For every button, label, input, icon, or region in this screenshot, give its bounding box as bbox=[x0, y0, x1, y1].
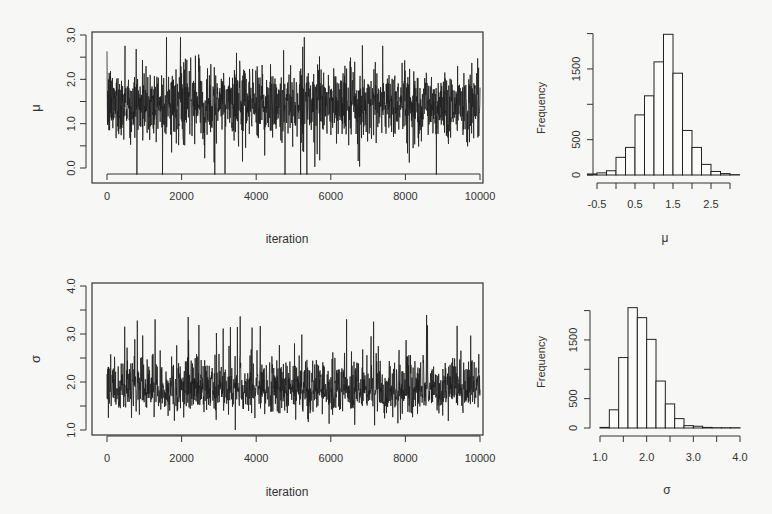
sigma-hist-x-axis: 1.02.03.04.0 bbox=[592, 436, 747, 463]
sigma-trace-line bbox=[107, 315, 480, 430]
mu-hist-panel: 05001500 -0.50.51.52.5 μ Frequency bbox=[535, 34, 740, 245]
histogram-bar bbox=[673, 73, 683, 175]
y-tick-label: 4.0 bbox=[65, 278, 77, 293]
y-tick-label: 1.0 bbox=[65, 422, 77, 437]
x-tick-label: 10000 bbox=[465, 190, 496, 202]
y-tick-label: 0.0 bbox=[65, 160, 77, 175]
x-tick-label: 4.0 bbox=[732, 451, 747, 463]
histogram-bar bbox=[647, 339, 656, 428]
x-tick-label: 2.0 bbox=[639, 451, 654, 463]
y-tick-label: 500 bbox=[570, 130, 582, 148]
sigma-hist-ylabel: Frequency bbox=[535, 336, 547, 388]
y-tick-label: 2.0 bbox=[65, 374, 77, 389]
x-tick-label: -0.5 bbox=[588, 198, 607, 210]
histogram-bar bbox=[637, 318, 646, 428]
sigma-trace-x-axis: 0200040006000800010000 bbox=[104, 436, 495, 464]
sigma-hist-y-axis: 05001500 bbox=[567, 311, 590, 431]
mu-trace-line bbox=[107, 37, 480, 175]
x-tick-label: 10000 bbox=[465, 452, 496, 464]
histogram-bar bbox=[664, 34, 674, 175]
x-tick-label: 6000 bbox=[319, 190, 343, 202]
sigma-trace-panel: 1.02.03.04.0 0200040006000800010000 iter… bbox=[28, 278, 495, 499]
mu-hist-xlabel: μ bbox=[662, 231, 669, 245]
y-tick-label: 3.0 bbox=[65, 27, 77, 42]
y-tick-label: 1.0 bbox=[65, 116, 77, 131]
x-tick-label: 2.5 bbox=[703, 198, 718, 210]
mu-trace-xlabel: iteration bbox=[266, 232, 309, 246]
histogram-bar bbox=[600, 427, 609, 428]
histogram-bar bbox=[703, 427, 712, 428]
x-tick-label: 0 bbox=[104, 190, 110, 202]
histogram-bar bbox=[619, 358, 628, 428]
sigma-hist-xlabel: σ bbox=[663, 483, 671, 497]
sigma-hist-bars bbox=[600, 308, 740, 428]
x-tick-label: 3.0 bbox=[686, 451, 701, 463]
histogram-bar bbox=[645, 96, 655, 175]
histogram-bar bbox=[675, 419, 684, 428]
y-tick-label: 500 bbox=[567, 389, 579, 407]
x-tick-label: 4000 bbox=[244, 190, 268, 202]
histogram-bar bbox=[683, 130, 693, 175]
sigma-trace-y-axis: 1.02.03.04.0 bbox=[65, 278, 86, 437]
histogram-bar bbox=[616, 157, 626, 175]
x-tick-label: 8000 bbox=[393, 190, 417, 202]
mu-trace-panel: 0.01.02.03.0 0200040006000800010000 iter… bbox=[28, 27, 495, 246]
histogram-bar bbox=[597, 173, 607, 175]
x-tick-label: 0.5 bbox=[627, 198, 642, 210]
histogram-bar bbox=[692, 147, 702, 175]
y-tick-label: 0 bbox=[567, 425, 579, 431]
x-tick-label: 1.0 bbox=[592, 451, 607, 463]
histogram-bar bbox=[684, 426, 693, 428]
histogram-bar bbox=[609, 410, 618, 428]
mu-hist-y-axis: 05001500 bbox=[570, 34, 593, 178]
mcmc-figure: 0.01.02.03.0 0200040006000800010000 iter… bbox=[0, 0, 772, 514]
mu-hist-bars bbox=[588, 34, 740, 175]
y-tick-label: 1500 bbox=[567, 328, 579, 352]
histogram-bar bbox=[702, 164, 712, 175]
mu-trace-x-axis: 0200040006000800010000 bbox=[104, 174, 495, 202]
y-tick-label: 0 bbox=[570, 172, 582, 178]
histogram-bar bbox=[628, 308, 637, 428]
x-tick-label: 8000 bbox=[393, 452, 417, 464]
mu-hist-ylabel: Frequency bbox=[535, 82, 547, 134]
histogram-bar bbox=[711, 171, 721, 175]
histogram-bar bbox=[721, 174, 731, 175]
x-tick-label: 2000 bbox=[169, 190, 193, 202]
x-tick-label: 2000 bbox=[169, 452, 193, 464]
histogram-bar bbox=[665, 404, 674, 428]
sigma-hist-panel: 05001500 1.02.03.04.0 σ Frequency bbox=[535, 308, 748, 497]
histogram-bar bbox=[654, 62, 664, 175]
mu-trace-ylabel: μ bbox=[28, 104, 43, 112]
histogram-bar bbox=[693, 426, 702, 428]
y-tick-label: 3.0 bbox=[65, 326, 77, 341]
histogram-bar bbox=[626, 147, 636, 175]
y-tick-label: 2.0 bbox=[65, 72, 77, 87]
y-tick-label: 1500 bbox=[570, 57, 582, 81]
x-tick-label: 6000 bbox=[319, 452, 343, 464]
x-tick-label: 1.5 bbox=[665, 198, 680, 210]
x-tick-label: 4000 bbox=[244, 452, 268, 464]
histogram-bar bbox=[656, 381, 665, 428]
sigma-trace-ylabel: σ bbox=[28, 355, 43, 363]
mu-hist-x-axis: -0.50.51.52.5 bbox=[588, 183, 730, 210]
x-tick-label: 0 bbox=[104, 452, 110, 464]
mu-trace-y-axis: 0.01.02.03.0 bbox=[65, 27, 86, 175]
sigma-trace-xlabel: iteration bbox=[266, 485, 309, 499]
histogram-bar bbox=[607, 171, 617, 175]
histogram-bar bbox=[635, 115, 645, 175]
